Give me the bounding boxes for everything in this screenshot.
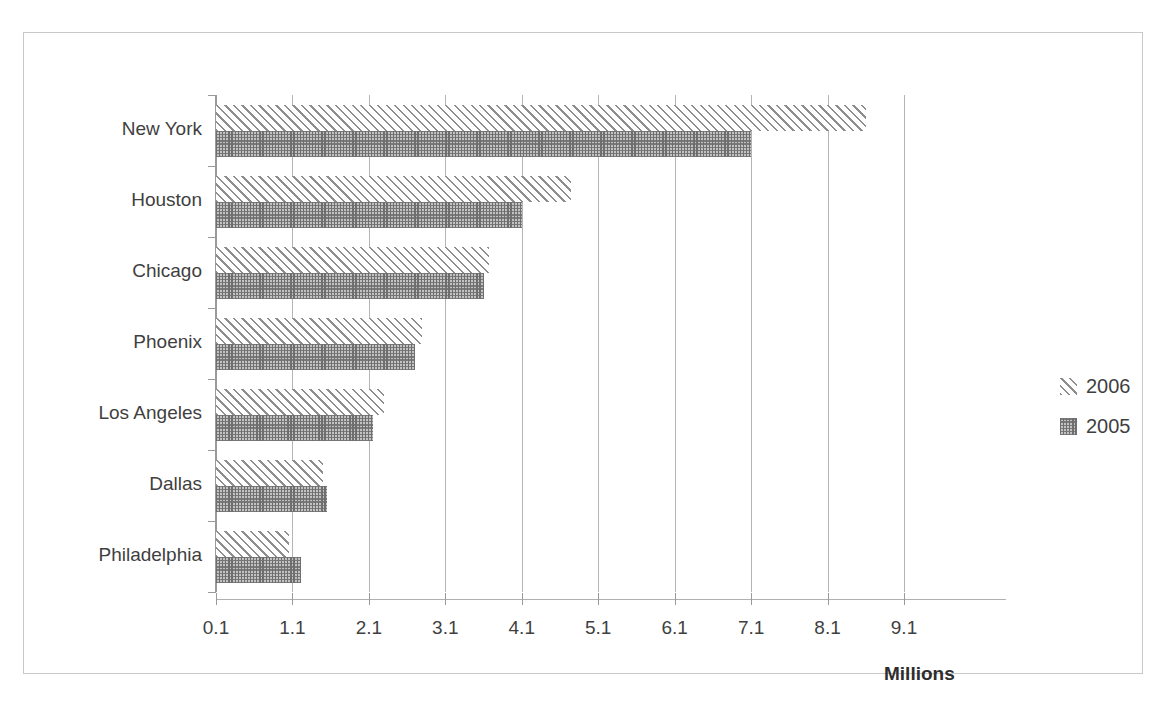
- y-axis-tick: [208, 379, 216, 380]
- x-axis-tick-label: 2.1: [339, 617, 399, 639]
- x-axis-tick: [369, 593, 370, 605]
- gridline: [675, 95, 676, 592]
- gridline: [522, 95, 523, 592]
- y-axis-category-label: Los Angeles: [42, 402, 202, 424]
- x-axis-tick: [598, 593, 599, 605]
- chart-frame: New YorkHoustonChicagoPhoenixLos Angeles…: [23, 32, 1143, 674]
- x-axis-tick-label: 9.1: [874, 617, 934, 639]
- bar-2006[interactable]: [216, 531, 289, 557]
- gridline: [751, 95, 752, 592]
- y-axis-category-label: New York: [42, 118, 202, 140]
- x-axis-tick-label: 6.1: [645, 617, 705, 639]
- plot-area: [216, 95, 904, 592]
- gridline: [828, 95, 829, 592]
- x-axis-spine: [216, 599, 1006, 600]
- x-axis-tick-label: 7.1: [721, 617, 781, 639]
- legend-label-2006: 2006: [1086, 375, 1131, 398]
- y-axis-tick: [208, 308, 216, 309]
- legend-swatch-2005-icon: [1060, 418, 1077, 435]
- x-axis-tick: [751, 593, 752, 605]
- x-axis-tick-label: 8.1: [798, 617, 858, 639]
- bar-2006[interactable]: [216, 389, 384, 415]
- x-axis-tick: [904, 593, 905, 605]
- x-axis-tick: [445, 593, 446, 605]
- x-axis-tick: [522, 593, 523, 605]
- legend-item-2005[interactable]: 2005: [1060, 406, 1156, 446]
- y-axis-category-label: Philadelphia: [42, 544, 202, 566]
- y-axis-category-label: Phoenix: [42, 331, 202, 353]
- x-axis-tick: [828, 593, 829, 605]
- x-axis-tick: [292, 593, 293, 605]
- y-axis-category-label: Dallas: [42, 473, 202, 495]
- x-axis-title: Millions: [884, 663, 955, 685]
- bar-2006[interactable]: [216, 460, 323, 486]
- bar-2005[interactable]: [216, 486, 327, 512]
- bar-2005[interactable]: [216, 344, 415, 370]
- y-axis-tick: [208, 521, 216, 522]
- chart-legend: 2006 2005: [1060, 366, 1156, 446]
- x-axis-tick: [216, 593, 217, 605]
- bar-2005[interactable]: [216, 273, 484, 299]
- bar-2006[interactable]: [216, 176, 571, 202]
- bar-2006[interactable]: [216, 318, 422, 344]
- bar-2005[interactable]: [216, 131, 751, 157]
- y-axis-category-labels: New YorkHoustonChicagoPhoenixLos Angeles…: [38, 95, 202, 592]
- x-axis-tick-label: 3.1: [415, 617, 475, 639]
- bar-2006[interactable]: [216, 105, 866, 131]
- legend-item-2006[interactable]: 2006: [1060, 366, 1156, 406]
- y-axis-tick: [208, 166, 216, 167]
- y-axis-tick: [208, 95, 216, 96]
- x-axis-tick-label: 0.1: [186, 617, 246, 639]
- x-axis-tick-label: 1.1: [262, 617, 322, 639]
- legend-label-2005: 2005: [1086, 415, 1131, 438]
- bar-2006[interactable]: [216, 247, 489, 273]
- x-axis-tick: [675, 593, 676, 605]
- bar-2005[interactable]: [216, 415, 373, 441]
- y-axis-category-label: Houston: [42, 189, 202, 211]
- x-axis-tick-label: 4.1: [492, 617, 552, 639]
- y-axis-tick: [208, 237, 216, 238]
- y-axis-tick: [208, 450, 216, 451]
- y-axis-tick: [208, 592, 216, 593]
- bar-2005[interactable]: [216, 557, 301, 583]
- x-axis-tick-label: 5.1: [568, 617, 628, 639]
- bar-2005[interactable]: [216, 202, 522, 228]
- legend-swatch-2006-icon: [1060, 378, 1077, 395]
- y-axis-spine: [215, 95, 216, 592]
- gridline: [598, 95, 599, 592]
- y-axis-category-label: Chicago: [42, 260, 202, 282]
- gridline: [904, 95, 905, 592]
- gridline: [445, 95, 446, 592]
